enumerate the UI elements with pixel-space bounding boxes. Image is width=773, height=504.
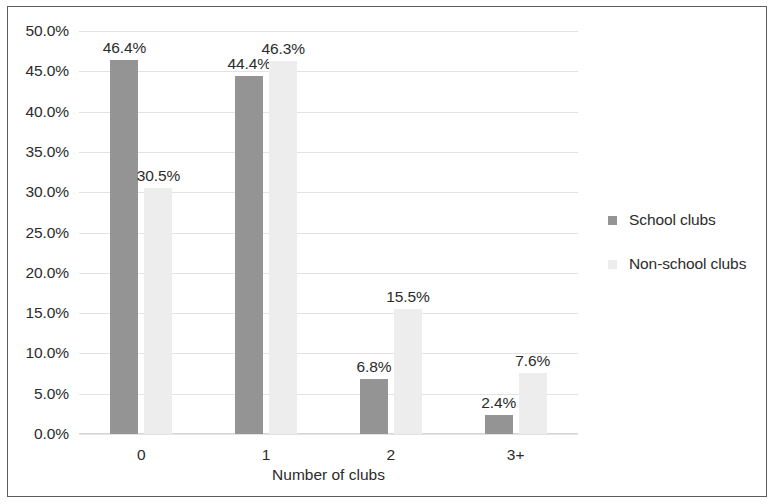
gridline [79,434,578,435]
x-axis-tick-label: 1 [262,446,271,464]
bar-group: 46.4%30.5%0 [79,31,204,434]
y-axis-tick-label: 50.0% [26,22,69,40]
bar[interactable]: 15.5% [394,309,422,434]
bar-value-label: 30.5% [137,167,180,185]
bar[interactable]: 46.4% [110,60,138,434]
legend-label: Non-school clubs [629,255,746,273]
bar[interactable]: 2.4% [485,415,513,434]
bar-fill [269,61,297,434]
bar-fill [235,76,263,434]
bar[interactable]: 30.5% [144,188,172,434]
bar-value-label: 44.4% [227,55,270,73]
bar-group: 44.4%46.3%1 [204,31,329,434]
legend-item[interactable]: School clubs [608,211,768,229]
bar[interactable]: 44.4% [235,76,263,434]
bar[interactable]: 46.3% [269,61,297,434]
bar-value-label: 6.8% [356,358,391,376]
bar-fill [110,60,138,434]
bar-fill [360,379,388,434]
bar-fill [485,415,513,434]
legend-label: School clubs [629,211,716,229]
y-axis-tick-label: 15.0% [26,304,69,322]
bar-value-label: 15.5% [386,288,429,306]
y-axis-tick-label: 35.0% [26,143,69,161]
bar-value-label: 7.6% [515,352,550,370]
y-axis-tick-label: 45.0% [26,62,69,80]
chart-figure: 50.0%45.0%40.0%35.0%30.0%25.0%20.0%15.0%… [0,0,773,504]
bar-group: 2.4%7.6%3+ [453,31,578,434]
legend-swatch-icon [608,216,617,225]
legend-item[interactable]: Non-school clubs [608,255,768,273]
y-axis-tick-label: 25.0% [26,224,69,242]
x-axis-title: Number of clubs [79,466,578,484]
y-axis-tick-label: 10.0% [26,344,69,362]
bar-value-label: 2.4% [481,394,516,412]
legend-swatch-icon [608,260,617,269]
bar-value-label: 46.4% [103,39,146,57]
y-axis-tick-label: 40.0% [26,103,69,121]
plot-area: 50.0%45.0%40.0%35.0%30.0%25.0%20.0%15.0%… [79,31,578,434]
bar[interactable]: 6.8% [360,379,388,434]
bar-fill [144,188,172,434]
bar-value-label: 46.3% [261,40,304,58]
y-axis-tick-label: 20.0% [26,264,69,282]
y-axis-tick-label: 5.0% [34,385,69,403]
y-axis-tick-label: 30.0% [26,183,69,201]
bar-fill [394,309,422,434]
y-axis-tick-label: 0.0% [34,425,69,443]
x-axis-tick-label: 2 [387,446,396,464]
bar-group: 6.8%15.5%2 [329,31,454,434]
x-axis-tick-label: 3+ [507,446,525,464]
x-axis-tick-label: 0 [137,446,146,464]
bar[interactable]: 7.6% [519,373,547,434]
bar-fill [519,373,547,434]
legend: School clubsNon-school clubs [608,211,768,299]
